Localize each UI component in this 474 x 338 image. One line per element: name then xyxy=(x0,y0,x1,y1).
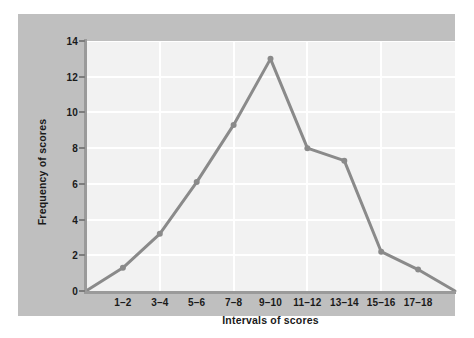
chart-root: 02468101214 1–23–45–67–89–1011–1213–1415… xyxy=(0,0,474,338)
x-tick-label: 3–4 xyxy=(151,297,168,308)
y-tick-mark xyxy=(79,219,85,221)
x-axis-line xyxy=(84,291,456,294)
y-tick-mark xyxy=(79,111,85,113)
x-tick-label: 1–2 xyxy=(114,297,131,308)
y-tick-mark xyxy=(79,183,85,185)
x-tick-label: 5–6 xyxy=(188,297,205,308)
data-point-marker xyxy=(120,265,126,271)
y-tick-label: 0 xyxy=(58,286,78,297)
data-point-marker xyxy=(194,179,200,185)
y-tick-mark xyxy=(79,147,85,149)
y-tick-label: 10 xyxy=(58,107,78,118)
data-point-marker xyxy=(341,158,347,164)
data-point-marker xyxy=(378,249,384,255)
data-series-frequency xyxy=(86,41,455,291)
y-tick-label: 4 xyxy=(58,214,78,225)
y-tick-mark xyxy=(79,290,85,292)
y-tick: 2 xyxy=(58,255,78,266)
y-tick: 12 xyxy=(58,77,78,88)
y-tick-label: 12 xyxy=(58,71,78,82)
x-tick-label: 17–18 xyxy=(404,297,433,308)
x-tick-label: 9–10 xyxy=(259,297,282,308)
y-tick-mark xyxy=(79,254,85,256)
data-point-marker xyxy=(157,231,163,237)
x-tick-label: 7–8 xyxy=(225,297,242,308)
y-tick: 4 xyxy=(58,220,78,231)
y-tick: 10 xyxy=(58,112,78,123)
y-tick: 8 xyxy=(58,148,78,159)
data-point-marker xyxy=(231,122,237,128)
data-point-marker xyxy=(415,267,421,273)
y-tick: 0 xyxy=(58,291,78,302)
chart-panel: 02468101214 1–23–45–67–89–1011–1213–1415… xyxy=(18,14,455,316)
y-tick-label: 6 xyxy=(58,178,78,189)
y-tick: 14 xyxy=(58,41,78,52)
data-point-marker xyxy=(304,145,310,151)
series-line xyxy=(86,59,455,291)
plot-area xyxy=(86,41,455,291)
y-tick-mark xyxy=(79,76,85,78)
y-tick-label: 8 xyxy=(58,143,78,154)
x-axis-title: Intervals of scores xyxy=(86,314,455,326)
y-tick: 6 xyxy=(58,184,78,195)
x-tick-label: 11–12 xyxy=(293,297,321,308)
data-point-marker xyxy=(268,56,274,62)
y-tick-label: 2 xyxy=(58,250,78,261)
y-axis-title: Frequency of scores xyxy=(36,92,48,252)
y-tick-label: 14 xyxy=(58,36,78,47)
y-tick-mark xyxy=(79,40,85,42)
x-tick-label: 13–14 xyxy=(330,297,359,308)
x-tick-label: 15–16 xyxy=(367,297,396,308)
